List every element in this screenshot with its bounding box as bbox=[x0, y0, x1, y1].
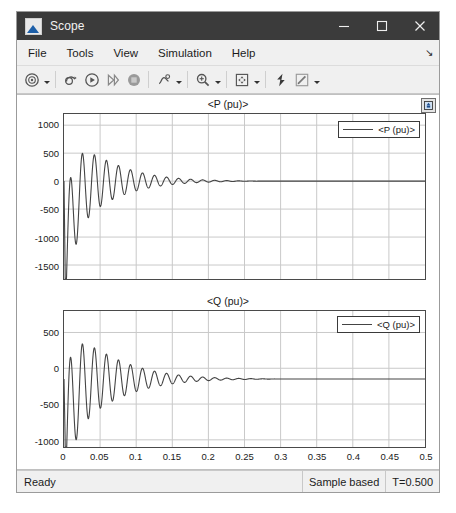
x-tick-label: 0.05 bbox=[90, 451, 109, 462]
legend-line-swatch bbox=[343, 129, 373, 130]
x-tick-label: 0.25 bbox=[235, 451, 254, 462]
y-tick-label: -1500 bbox=[35, 260, 59, 271]
legend[interactable]: <P (pu)> bbox=[338, 121, 420, 138]
y-tick-label: 500 bbox=[43, 147, 59, 158]
zoom-in-icon[interactable] bbox=[192, 69, 213, 90]
toolbar-separator bbox=[187, 71, 188, 88]
minimize-button[interactable] bbox=[325, 12, 363, 40]
legend[interactable]: <Q (pu)> bbox=[337, 316, 420, 333]
scope-window: Scope File Tools View Simulation Help ↘ bbox=[16, 11, 440, 493]
lower-axes-block: <Q (pu)> 5000-500-100000.050.10.150.20.2… bbox=[17, 294, 439, 308]
lower-axes[interactable]: 5000-500-100000.050.10.150.20.250.30.350… bbox=[63, 310, 426, 448]
style-icon[interactable] bbox=[291, 69, 312, 90]
y-tick-label: 500 bbox=[43, 326, 59, 337]
x-tick-label: 0.35 bbox=[308, 451, 327, 462]
x-tick-label: 0 bbox=[60, 451, 65, 462]
maximize-button[interactable] bbox=[363, 12, 401, 40]
upper-axes-frame bbox=[63, 113, 426, 280]
configuration-properties-icon[interactable] bbox=[21, 69, 42, 90]
zoom-in-dropdown-icon[interactable] bbox=[213, 69, 222, 90]
menu-overflow-icon[interactable]: ↘ bbox=[425, 47, 433, 58]
lower-axes-title: <Q (pu)> bbox=[17, 294, 439, 308]
x-tick-label: 0.3 bbox=[274, 451, 287, 462]
frame-mode-status: Sample based bbox=[302, 471, 385, 492]
cursor-measurements-icon[interactable] bbox=[270, 69, 291, 90]
signal-selection-icon[interactable] bbox=[153, 69, 174, 90]
x-tick-label: 0.5 bbox=[419, 451, 432, 462]
plot-area: <P (pu)> 10005000-500-1000-1500<P (pu)> … bbox=[17, 94, 439, 470]
x-tick-label: 0.1 bbox=[129, 451, 142, 462]
maximize-axes-icon[interactable] bbox=[421, 98, 436, 113]
menu-file[interactable]: File bbox=[19, 44, 56, 62]
style-dropdown-icon[interactable] bbox=[312, 69, 321, 90]
menu-view[interactable]: View bbox=[104, 44, 147, 62]
upper-axes[interactable]: 10005000-500-1000-1500<P (pu)> bbox=[63, 113, 426, 280]
legend-label: <P (pu)> bbox=[378, 124, 415, 135]
x-tick-label: 0.4 bbox=[347, 451, 360, 462]
print-icon[interactable] bbox=[60, 69, 81, 90]
menu-bar: File Tools View Simulation Help ↘ bbox=[17, 40, 439, 66]
configuration-properties-dropdown-icon[interactable] bbox=[42, 69, 51, 90]
legend-label: <Q (pu)> bbox=[377, 319, 415, 330]
autoscale-dropdown-icon[interactable] bbox=[252, 69, 261, 90]
upper-axes-title: <P (pu)> bbox=[17, 97, 439, 111]
signal-selection-dropdown-icon[interactable] bbox=[174, 69, 183, 90]
toolbar-separator bbox=[226, 71, 227, 88]
y-tick-label: 0 bbox=[54, 363, 59, 374]
y-tick-label: 0 bbox=[54, 175, 59, 186]
status-message: Ready bbox=[17, 471, 302, 492]
y-tick-label: -500 bbox=[40, 399, 59, 410]
menu-help[interactable]: Help bbox=[223, 44, 265, 62]
y-tick-label: -1000 bbox=[35, 435, 59, 446]
menu-simulation[interactable]: Simulation bbox=[149, 44, 221, 62]
x-tick-label: 0.15 bbox=[163, 451, 182, 462]
legend-line-swatch bbox=[342, 324, 372, 325]
simulation-time-status: T=0.500 bbox=[385, 471, 439, 492]
run-icon[interactable] bbox=[81, 69, 102, 90]
upper-plot-canvas bbox=[64, 114, 425, 279]
status-bar: Ready Sample based T=0.500 bbox=[17, 470, 439, 492]
close-button[interactable] bbox=[401, 12, 439, 40]
window-title: Scope bbox=[50, 19, 325, 33]
upper-axes-block: <P (pu)> 10005000-500-1000-1500<P (pu)> bbox=[17, 97, 439, 111]
toolbar-separator bbox=[265, 71, 266, 88]
toolbar-separator bbox=[55, 71, 56, 88]
y-tick-label: -500 bbox=[40, 204, 59, 215]
scope-icon bbox=[25, 18, 42, 35]
stop-icon[interactable] bbox=[123, 69, 144, 90]
x-tick-label: 0.2 bbox=[202, 451, 215, 462]
step-forward-icon[interactable] bbox=[102, 69, 123, 90]
x-tick-label: 0.45 bbox=[380, 451, 399, 462]
toolbar-separator bbox=[148, 71, 149, 88]
toolbar bbox=[17, 66, 439, 94]
y-tick-label: -1000 bbox=[35, 232, 59, 243]
title-bar: Scope bbox=[17, 12, 439, 40]
autoscale-icon[interactable] bbox=[231, 69, 252, 90]
menu-tools[interactable]: Tools bbox=[58, 44, 103, 62]
y-tick-label: 1000 bbox=[38, 119, 59, 130]
